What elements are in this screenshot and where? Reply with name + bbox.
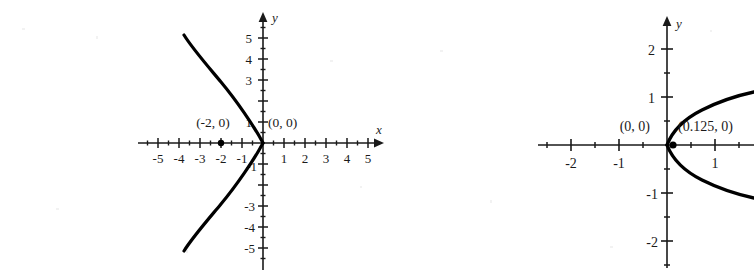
annotation-origin: (0, 0): [268, 115, 297, 130]
left-y-axis-label: y: [270, 10, 278, 25]
x-tick-label: 2: [302, 151, 309, 166]
x-tick-label: 3: [323, 151, 330, 166]
x-tick-label: -3: [195, 151, 206, 166]
x-tick-label: 1: [281, 151, 288, 166]
y-tick-label: -4: [244, 220, 255, 235]
y-tick-label: 2: [648, 43, 655, 58]
x-tick-label: -5: [153, 151, 164, 166]
right-x-tick-labels: -2 -1 1: [565, 156, 718, 171]
y-tick-label: 1: [648, 91, 655, 106]
x-tick-label: -1: [613, 156, 625, 171]
scan-noise: [22, 28, 362, 253]
x-tick-label: 5: [365, 151, 372, 166]
y-tick-label: 3: [246, 73, 253, 88]
y-tick-label: -2: [646, 235, 658, 250]
y-tick-label: 5: [246, 31, 253, 46]
left-parabola-svg: y x -5 -4 -3 -2 -1 1 2 3 4 5 5 4 3 1: [0, 0, 410, 279]
annotation-0125-0: (0.125, 0): [678, 119, 733, 135]
y-tick-label: -3: [244, 199, 255, 214]
x-tick-label: -2: [565, 156, 577, 171]
annotation-origin: (0, 0): [620, 119, 651, 135]
marked-point-dot: [218, 140, 224, 146]
y-axis-arrowhead: [259, 12, 268, 22]
right-parabola-panel: y -2 -1 1 2 1 -1 -2 (0, 0) (0.125, 0): [410, 0, 754, 279]
right-parabola-svg: y -2 -1 1 2 1 -1 -2 (0, 0) (0.125, 0): [410, 0, 754, 279]
x-tick-label: 1: [712, 156, 719, 171]
x-tick-label: 4: [344, 151, 351, 166]
x-axis-arrowhead: [374, 139, 384, 148]
x-tick-label: -4: [174, 151, 185, 166]
figure-root: y x -5 -4 -3 -2 -1 1 2 3 4 5 5 4 3 1: [0, 0, 754, 279]
marked-point-dot: [669, 141, 676, 148]
y-tick-label: -1: [646, 187, 658, 202]
right-y-axis-label: y: [674, 16, 682, 31]
left-parabola-panel: y x -5 -4 -3 -2 -1 1 2 3 4 5 5 4 3 1: [0, 0, 410, 279]
right-parabola-curve-lower: [667, 145, 754, 198]
y-tick-label: 4: [246, 52, 253, 67]
left-x-axis-label: x: [375, 122, 382, 137]
y-tick-label: -5: [244, 241, 255, 256]
x-tick-label: -2: [216, 151, 227, 166]
annotation-minus2-0: (-2, 0): [196, 115, 230, 130]
right-y-tick-labels: 2 1 -1 -2: [646, 43, 658, 250]
